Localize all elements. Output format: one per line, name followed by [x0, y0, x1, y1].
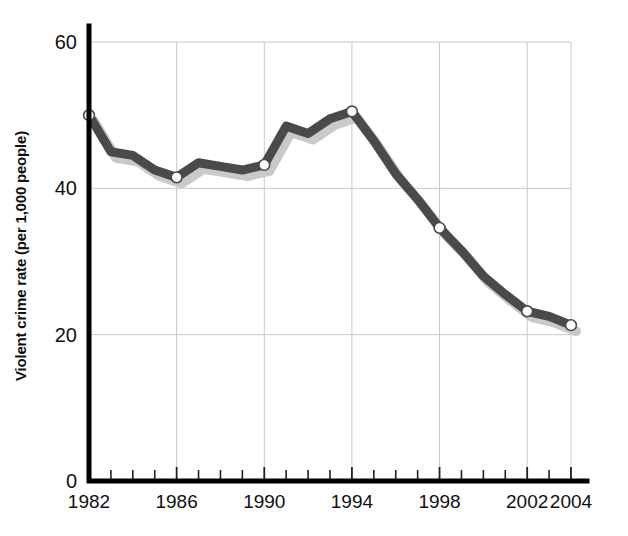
x-tick-label-1986: 1986 [155, 491, 197, 512]
y-tick-label-60: 60 [55, 31, 77, 53]
data-point-marker-1998 [434, 222, 445, 233]
data-point-marker-2004 [566, 320, 577, 331]
y-axis-title: Violent crime rate (per 1,000 people) [12, 131, 29, 381]
chart-canvas: 0204060 1982198619901994199820022004 Vio… [0, 0, 628, 536]
x-tick-label-1994: 1994 [331, 491, 374, 512]
x-tick-label-2002: 2002 [506, 491, 548, 512]
x-tick-label-2004: 2004 [550, 491, 593, 512]
x-tick-label-1982: 1982 [68, 491, 110, 512]
y-tick-label-40: 40 [55, 177, 77, 199]
x-tick-label-1998: 1998 [418, 491, 460, 512]
data-point-marker-2002 [522, 306, 533, 317]
data-point-marker-1990 [259, 160, 270, 171]
y-tick-label-20: 20 [55, 324, 77, 346]
x-tick-label-1990: 1990 [243, 491, 285, 512]
chart-background [0, 0, 628, 536]
data-point-marker-1986 [171, 172, 182, 183]
violent-crime-rate-chart: 0204060 1982198619901994199820022004 Vio… [0, 0, 628, 536]
y-tick-label-0: 0 [66, 470, 77, 492]
data-point-marker-1994 [347, 106, 358, 117]
